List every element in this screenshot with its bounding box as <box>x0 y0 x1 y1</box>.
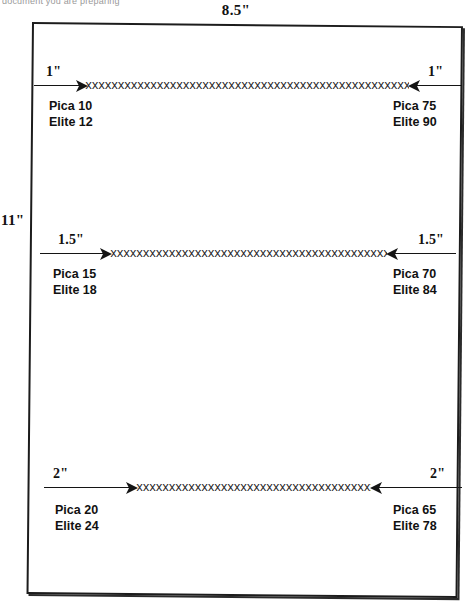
margin-row-1-inch: 1" xxxxxxxxxxxxxxxxxxxxxxxxxxxxxxxxxxxxx… <box>0 64 472 150</box>
row2-right-positions: Pica 70 Elite 84 <box>393 266 437 298</box>
row1-right-elite-label: Elite 90 <box>393 114 437 130</box>
row1-typing-line: xxxxxxxxxxxxxxxxxxxxxxxxxxxxxxxxxxxxxxxx… <box>85 79 409 93</box>
row3-left-inch-label: 2" <box>53 466 68 482</box>
row2-right-arrow <box>388 248 456 260</box>
row1-left-elite-label: Elite 12 <box>49 114 93 130</box>
row2-left-positions: Pica 15 Elite 18 <box>53 266 97 298</box>
arrow-left-icon <box>386 248 398 260</box>
row1-right-arrow <box>410 80 462 92</box>
row1-left-positions: Pica 10 Elite 12 <box>49 98 93 130</box>
row2-left-arrow <box>40 248 110 260</box>
row3-left-arrow <box>44 482 136 494</box>
margin-row-1-5-inch: 1.5" xxxxxxxxxxxxxxxxxxxxxxxxxxxxxxxxxxx… <box>0 232 472 318</box>
row2-left-pica-label: Pica 15 <box>53 266 97 282</box>
row2-right-elite-label: Elite 84 <box>393 282 437 298</box>
row2-left-inch-label: 1.5" <box>58 232 84 248</box>
row1-right-inch-label: 1" <box>428 64 443 80</box>
page-height-label: 11" <box>1 212 24 229</box>
arrow-left-icon <box>370 482 382 494</box>
row3-right-positions: Pica 65 Elite 78 <box>393 502 437 534</box>
page-margins-diagram: document you are preparing 8.5" 11" 1" x… <box>0 0 472 602</box>
row2-left-elite-label: Elite 18 <box>53 282 97 298</box>
row3-right-arrow <box>372 482 462 494</box>
row2-typing-line: xxxxxxxxxxxxxxxxxxxxxxxxxxxxxxxxxxxxxxxx… <box>110 247 387 261</box>
row3-left-positions: Pica 20 Elite 24 <box>55 502 99 534</box>
row1-right-pica-label: Pica 75 <box>393 98 437 114</box>
row3-right-pica-label: Pica 65 <box>393 502 437 518</box>
row1-left-pica-label: Pica 10 <box>49 98 93 114</box>
row1-left-arrow <box>34 80 86 92</box>
row2-right-inch-label: 1.5" <box>418 232 444 248</box>
row2-right-pica-label: Pica 70 <box>393 266 437 282</box>
row3-right-elite-label: Elite 78 <box>393 518 437 534</box>
arrow-left-icon <box>408 80 420 92</box>
page-width-label: 8.5" <box>0 2 472 19</box>
row1-right-positions: Pica 75 Elite 90 <box>393 98 437 130</box>
row3-left-elite-label: Elite 24 <box>55 518 99 534</box>
row3-left-pica-label: Pica 20 <box>55 502 99 518</box>
row3-right-inch-label: 2" <box>430 466 445 482</box>
row3-typing-line: xxxxxxxxxxxxxxxxxxxxxxxxxxxxxxxxxxxxxxxx… <box>136 481 371 495</box>
margin-row-2-inch: 2" xxxxxxxxxxxxxxxxxxxxxxxxxxxxxxxxxxxxx… <box>0 466 472 552</box>
row1-left-inch-label: 1" <box>46 64 61 80</box>
